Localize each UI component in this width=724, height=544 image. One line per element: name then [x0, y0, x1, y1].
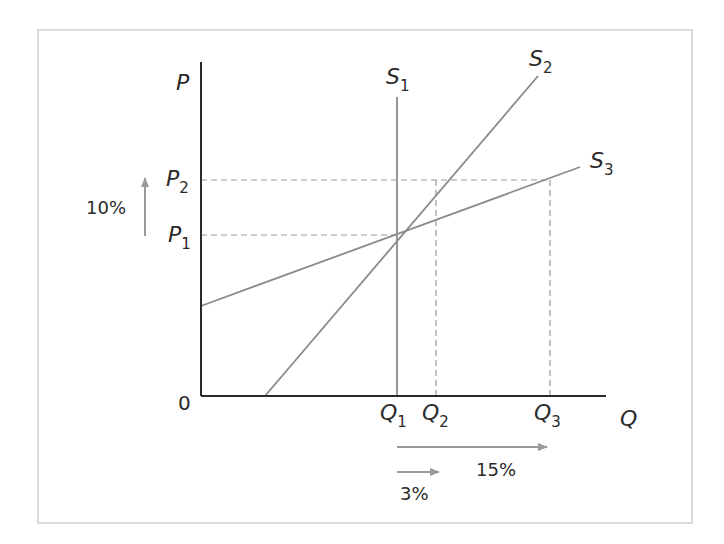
p1-label: P1	[168, 222, 191, 253]
supply-diagram: P Q 0 P2 P1 Q1 Q2 Q3 S1 S2 S3 10% 15% 3%	[0, 0, 724, 544]
qty-change-s3-label: 15%	[476, 459, 516, 480]
q2-label: Q2	[422, 400, 449, 431]
p2-label: P2	[166, 166, 189, 197]
price-change-label: 10%	[86, 197, 126, 218]
s1-label: S1	[386, 64, 410, 95]
origin-label: 0	[178, 391, 191, 415]
guide-lines	[201, 180, 550, 396]
curve-s3	[201, 167, 580, 306]
q1-label: Q1	[380, 400, 407, 431]
curve-s2	[265, 76, 538, 396]
qty-change-s2-label: 3%	[400, 483, 429, 504]
y-axis-label: P	[176, 70, 190, 95]
s2-label: S2	[529, 46, 553, 77]
axes	[201, 62, 606, 396]
x-axis-label: Q	[620, 406, 637, 431]
s3-label: S3	[590, 148, 614, 179]
supply-curves	[201, 76, 580, 396]
q3-label: Q3	[534, 400, 561, 431]
diagram-frame	[38, 30, 692, 523]
